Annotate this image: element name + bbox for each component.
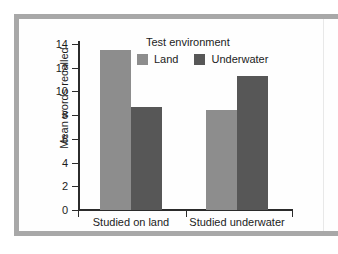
x-axis-category-label: Studied on land <box>71 216 191 228</box>
x-axis-tick <box>186 211 187 217</box>
y-axis-tick-label: 10 <box>46 86 68 97</box>
y-axis-tick-label: 14 <box>46 39 68 50</box>
y-axis-tick <box>72 139 78 140</box>
y-axis-tick <box>72 44 78 45</box>
y-axis-tick <box>72 163 78 164</box>
x-axis-category-label: Studied underwater <box>177 216 297 228</box>
y-axis-tick-label: 12 <box>46 63 68 74</box>
y-axis-tick-label: 6 <box>46 134 68 145</box>
legend-title: Test environment <box>146 36 284 48</box>
legend-swatch-icon <box>194 54 205 65</box>
legend-entry-underwater: Underwater <box>194 53 268 65</box>
y-axis-tick-label: 4 <box>46 158 68 169</box>
y-axis-tick-label: 8 <box>46 110 68 121</box>
y-axis-tick-label: 2 <box>46 181 68 192</box>
bar-underwater-1 <box>237 76 268 210</box>
legend-label: Land <box>154 53 178 65</box>
y-axis-tick <box>72 68 78 69</box>
y-axis-tick <box>72 115 78 116</box>
legend-entry-land: Land <box>137 53 178 65</box>
legend-swatch-icon <box>137 54 148 65</box>
bar-underwater-0 <box>131 107 162 210</box>
legend-label: Underwater <box>211 53 268 65</box>
y-axis-line <box>78 41 80 211</box>
bar-land-1 <box>206 110 237 210</box>
x-axis-tick <box>292 211 293 217</box>
y-axis-tick <box>72 91 78 92</box>
x-axis-tick <box>78 211 79 217</box>
legend: Test environment LandUnderwater <box>137 36 284 65</box>
y-axis-tick-label: 0 <box>46 205 68 216</box>
legend-entries: LandUnderwater <box>137 53 284 65</box>
y-axis-tick <box>72 186 78 187</box>
bar-land-0 <box>100 50 131 210</box>
